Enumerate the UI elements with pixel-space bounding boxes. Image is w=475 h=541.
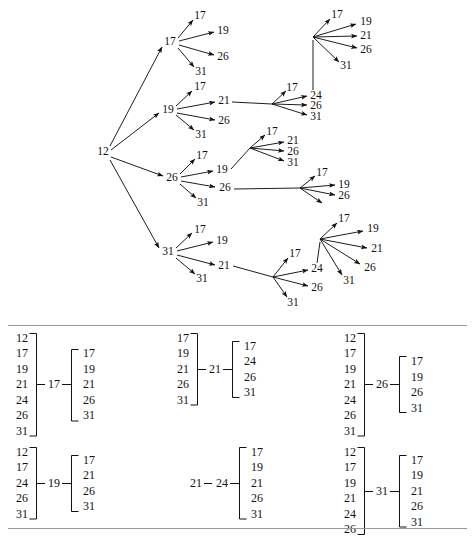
bracket-left-item: 17 (344, 347, 356, 359)
tree-node-n-21-31: 31 (310, 111, 322, 123)
bracket-right-item: 17 (411, 454, 423, 466)
tree-node-n-26-26-17: 17 (316, 167, 328, 179)
bracket-right-brace (71, 349, 80, 423)
bracket-left-brace (29, 447, 38, 521)
edge-26-17 (180, 159, 195, 174)
bracket-center-label: 21 (190, 477, 202, 489)
edge-31-31 (176, 258, 195, 274)
bracket-left-item: 31 (344, 425, 356, 437)
bracket-right-item: 21 (251, 477, 263, 489)
tree-node-n-31-21-24: 24 (311, 263, 323, 275)
stem-19-hub (231, 148, 250, 169)
tree-node-n-26-17: 17 (196, 150, 208, 162)
stem-21-hub (232, 102, 272, 104)
tree-node-root: 12 (97, 146, 109, 158)
bracket-right-connector (390, 384, 399, 385)
edge-21-24 (272, 96, 307, 104)
bracket-left-item: 12 (16, 446, 28, 458)
divider-bottom (8, 528, 467, 529)
bracket-right-item: 19 (83, 363, 95, 375)
bracket-right-item: 31 (251, 508, 263, 520)
edge-12-26 (111, 157, 163, 176)
tree-node-n-31-24-21: 21 (371, 243, 383, 255)
bracket-left-item: 26 (177, 378, 189, 390)
bracket-right-item: 19 (411, 469, 423, 481)
tree-node-n-31-19: 19 (216, 235, 228, 247)
edge-17-17 (178, 20, 193, 38)
bracket-right-item: 19 (411, 371, 423, 383)
divider-top (8, 325, 467, 326)
tree-node-n-31: 31 (162, 246, 174, 258)
tree-node-n-19-31: 31 (195, 129, 207, 141)
tree-node-n-31-21-26: 26 (311, 282, 323, 294)
edge-31-19 (177, 242, 213, 251)
tree-node-n-26-26: 26 (219, 182, 231, 194)
bracket-center-label: 24 (216, 477, 228, 489)
edge-21-31 (272, 104, 307, 115)
tree-node-n-26: 26 (166, 172, 178, 184)
edge-26-19-21 (250, 142, 284, 148)
tree-node-n-26-19: 19 (216, 164, 228, 176)
bracket-right-item: 24 (244, 355, 256, 367)
edge-26-19 (181, 171, 213, 177)
stem-31-21-hub (233, 266, 273, 277)
bracket-left-brace (357, 447, 366, 536)
bracket-right-brace (399, 356, 408, 414)
bracket-right-item: 21 (83, 378, 95, 390)
bracket-left-item: 21 (344, 378, 356, 390)
bracket-left-item: 26 (344, 409, 356, 421)
bracket-right-item: 17 (251, 446, 263, 458)
tree-node-n-31-31: 31 (196, 273, 208, 285)
bracket-right-connector (230, 483, 239, 484)
bracket-right-item: 19 (251, 461, 263, 473)
bracket-left-brace (357, 333, 366, 438)
bracket-left-item: 17 (177, 332, 189, 344)
bracket-right-connector (62, 483, 71, 484)
bracket-right-item: 26 (411, 500, 423, 512)
bracket-left-item: 24 (16, 394, 28, 406)
bracket-left-item: 12 (344, 332, 356, 344)
bracket-right-brace (71, 455, 80, 513)
tree-node-n-31-24-26: 26 (364, 262, 376, 274)
bracket-right-connector (223, 369, 232, 370)
edge-26-26-19 (300, 185, 335, 188)
tree-node-n-19-26: 26 (218, 115, 230, 127)
bracket-right-item: 31 (244, 386, 256, 398)
bracket-right-brace (399, 455, 408, 529)
bracket-right-item: 26 (83, 394, 95, 406)
edge-31-24-31 (320, 239, 342, 275)
bracket-left-item: 21 (177, 363, 189, 375)
stem-31-24-hub (317, 242, 320, 263)
bracket-right-item: 17 (411, 355, 423, 367)
bracket-left-item: 31 (16, 425, 28, 437)
bracket-left-brace (29, 333, 38, 438)
bracket-right-item: 31 (83, 409, 95, 421)
bracket-left-item: 24 (344, 394, 356, 406)
tree-node-n-31-24-19: 19 (367, 223, 379, 235)
bracket-right-item: 21 (411, 485, 423, 497)
tree-node-n-24-19: 19 (360, 16, 372, 28)
bracket-left-item: 24 (16, 477, 28, 489)
edge-26-26-17 (300, 176, 315, 188)
bracket-right-item: 21 (83, 469, 95, 481)
bracket-right-connector (62, 384, 71, 385)
edge-31-24-19 (320, 231, 363, 239)
bracket-center-label: 19 (48, 477, 60, 489)
edge-17-26 (179, 45, 214, 55)
bracket-left-item: 12 (16, 332, 28, 344)
bracket-center-label: 17 (48, 378, 60, 390)
tree-node-n-24-31: 31 (340, 60, 352, 72)
edge-26-26 (181, 181, 215, 187)
bracket-left-connector (365, 384, 373, 385)
tree-node-n-24-17: 17 (331, 9, 343, 21)
edge-24-21 (313, 36, 357, 37)
tree-node-n-31-21-31: 31 (287, 297, 299, 309)
edge-19-17 (176, 91, 192, 106)
tree-node-n-21-17: 17 (286, 82, 298, 94)
bracket-right-connector (390, 491, 399, 492)
tree-node-n-31-17: 17 (194, 224, 206, 236)
tree-node-n-26-19-31: 31 (287, 157, 299, 169)
bracket-right-item: 31 (83, 500, 95, 512)
bracket-left-connector (37, 384, 45, 385)
bracket-left-item: 24 (344, 508, 356, 520)
